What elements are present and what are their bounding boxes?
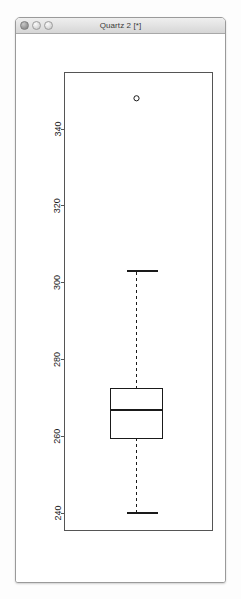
y-axis (61, 129, 65, 513)
y-axis-tick-label: 240 (53, 505, 63, 520)
plot-frame (65, 73, 213, 531)
y-axis-tick-label: 340 (53, 121, 63, 136)
y-axis-tick-label: 300 (53, 275, 63, 290)
application-window[interactable]: Quartz 2 [*] 240260280300320340 (15, 17, 226, 583)
box-rect (111, 389, 163, 438)
y-axis-tick-labels: 240260280300320340 (53, 121, 63, 520)
window-titlebar[interactable]: Quartz 2 [*] (16, 18, 225, 34)
boxplot-box-group (111, 96, 163, 513)
y-axis-tick-label: 320 (53, 198, 63, 213)
outlier-point (134, 96, 139, 101)
boxplot-figure: 240260280300320340 (16, 34, 225, 582)
y-axis-tick-label: 260 (53, 429, 63, 444)
window-title: Quartz 2 [*] (16, 20, 225, 32)
plot-canvas: 240260280300320340 (16, 34, 225, 582)
y-axis-tick-label: 280 (53, 352, 63, 367)
